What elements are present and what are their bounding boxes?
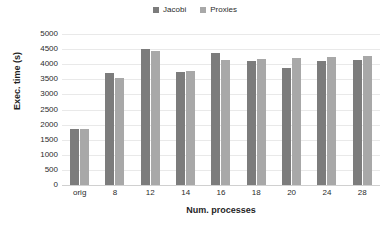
bar-jacobi-12 <box>141 49 150 185</box>
legend-swatch-proxies <box>200 7 206 13</box>
bar-proxies-20 <box>292 58 301 185</box>
bar-proxies-28 <box>363 56 372 185</box>
bar-jacobi-14 <box>176 72 185 185</box>
y-axis-tick-label: 4500 <box>40 45 58 53</box>
bar-group-12 <box>141 34 160 185</box>
bar-group-24 <box>317 34 336 185</box>
legend-swatch-jacobi <box>153 7 159 13</box>
bar-jacobi-8 <box>105 73 114 185</box>
legend-label-proxies: Proxies <box>210 6 237 14</box>
y-axis-tick-label: 2000 <box>40 121 58 129</box>
y-axis-tick-label: 500 <box>45 166 58 174</box>
x-axis-tick-label: 24 <box>312 188 342 197</box>
bar-proxies-18 <box>257 59 266 185</box>
x-axis-tick-label: 14 <box>171 188 201 197</box>
bar-group-16 <box>211 34 230 185</box>
bar-jacobi-16 <box>211 53 220 185</box>
bar-group-20 <box>282 34 301 185</box>
x-axis-tick-label: 12 <box>135 188 165 197</box>
y-axis-tick-label: 0 <box>54 181 58 189</box>
legend-label-jacobi: Jacobi <box>163 6 186 14</box>
bar-proxies-14 <box>186 71 195 185</box>
plot-area <box>62 34 380 185</box>
x-axis-tick-label: 8 <box>100 188 130 197</box>
y-axis-tick-label: 3000 <box>40 90 58 98</box>
x-axis-tick-label: 20 <box>277 188 307 197</box>
bar-group-14 <box>176 34 195 185</box>
chart-legend: Jacobi Proxies <box>0 6 390 14</box>
y-axis-tick-label: 5000 <box>40 30 58 38</box>
bar-jacobi-orig <box>70 129 79 185</box>
bar-groups <box>62 34 380 185</box>
legend-entry-jacobi: Jacobi <box>153 6 186 14</box>
bar-group-28 <box>353 34 372 185</box>
bar-jacobi-20 <box>282 68 291 185</box>
y-axis-tick-label: 1000 <box>40 151 58 159</box>
x-axis-ticks: orig812141618202428 <box>62 188 380 197</box>
x-axis-tick-label: 18 <box>241 188 271 197</box>
bar-proxies-12 <box>151 51 160 185</box>
bar-jacobi-18 <box>247 61 256 185</box>
legend-entry-proxies: Proxies <box>200 6 237 14</box>
bar-group-orig <box>70 34 89 185</box>
bar-proxies-8 <box>115 78 124 185</box>
bar-jacobi-24 <box>317 61 326 185</box>
x-axis-title: Num. processes <box>62 205 380 215</box>
bar-chart: Jacobi Proxies Exec. time (s) 5000450040… <box>0 0 390 229</box>
x-axis-tick-label: 16 <box>206 188 236 197</box>
bar-group-18 <box>247 34 266 185</box>
x-axis-line <box>62 185 380 186</box>
x-axis-tick-label: 28 <box>347 188 377 197</box>
y-axis-tick-label: 1500 <box>40 136 58 144</box>
bar-proxies-16 <box>221 60 230 185</box>
bar-proxies-orig <box>80 129 89 185</box>
y-axis-tick-label: 2500 <box>40 106 58 114</box>
y-axis-ticks: 5000450040003500300025002000150010005000 <box>24 34 58 185</box>
y-axis-tick-label: 4000 <box>40 60 58 68</box>
x-axis-tick-label: orig <box>65 188 95 197</box>
bar-proxies-24 <box>327 57 336 185</box>
bar-group-8 <box>105 34 124 185</box>
bar-jacobi-28 <box>353 60 362 185</box>
y-axis-title: Exec. time (s) <box>12 26 22 136</box>
y-axis-tick-label: 3500 <box>40 75 58 83</box>
